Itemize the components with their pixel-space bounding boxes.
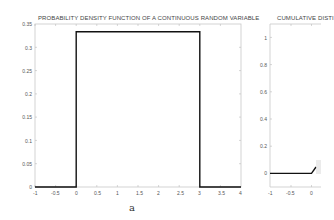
cdf-chart-title: CUMULATIVE DISTI xyxy=(277,15,334,21)
pdf-y-tick: 0.35 xyxy=(22,21,32,27)
pdf-y-tick: 0 xyxy=(29,184,32,190)
pdf-chart-title: PROBABILITY DENSITY FUNCTION OF A CONTIN… xyxy=(38,15,259,21)
cdf-y-tick: 0 xyxy=(264,170,267,176)
cdf-y-tick: 0.8 xyxy=(260,62,267,68)
pdf-x-tick: 0.5 xyxy=(94,190,101,196)
cdf-y-tick: 0.2 xyxy=(260,143,267,149)
pdf-y-tick: 0.1 xyxy=(25,138,32,144)
pdf-plot-frame xyxy=(35,24,241,187)
cdf-x-tick: -1 xyxy=(268,190,272,196)
cdf-line xyxy=(270,167,316,173)
pdf-x-tick: 3.5 xyxy=(218,190,225,196)
pdf-x-tick-marks xyxy=(35,24,220,187)
pdf-x-tick: -0.5 xyxy=(51,190,60,196)
cdf-tick-marks xyxy=(270,24,312,187)
pdf-x-tick: 3 xyxy=(198,190,201,196)
cdf-y-tick: 0.4 xyxy=(260,116,267,122)
pdf-line xyxy=(35,32,241,187)
pdf-x-tick: 1.5 xyxy=(136,190,143,196)
pdf-x-tick: 1 xyxy=(116,190,119,196)
pdf-y-tick: 0.25 xyxy=(22,68,32,74)
figure-caption: a xyxy=(129,202,135,213)
pdf-y-tick-marks xyxy=(35,47,241,163)
pdf-y-tick: 0.05 xyxy=(22,161,32,167)
cdf-x-tick: 0 xyxy=(310,190,313,196)
cdf-y-tick: 0.6 xyxy=(260,89,267,95)
cdf-y-tick: 1 xyxy=(264,35,267,41)
pdf-x-tick: 0 xyxy=(75,190,78,196)
pdf-x-tick: 2 xyxy=(157,190,160,196)
pdf-x-tick: -1 xyxy=(33,190,37,196)
cdf-line-fade xyxy=(316,160,321,174)
pdf-y-tick: 0.3 xyxy=(25,45,32,51)
pdf-x-tick: 4 xyxy=(239,190,242,196)
pdf-x-tick: 2.5 xyxy=(177,190,184,196)
pdf-y-tick: 0.2 xyxy=(25,91,32,97)
pdf-y-tick: 0.15 xyxy=(22,114,32,120)
cdf-x-tick: -0.5 xyxy=(286,190,295,196)
